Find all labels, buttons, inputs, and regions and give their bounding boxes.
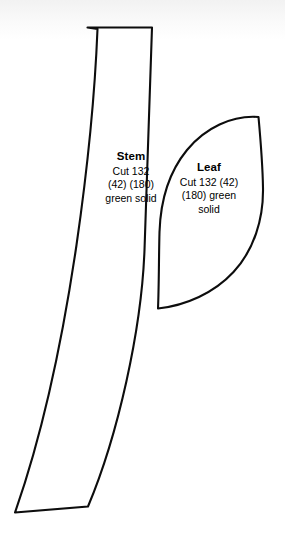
pattern-drawing (0, 0, 285, 547)
pattern-sheet: Stem Cut 132 (42) (180) green solid Leaf… (0, 0, 285, 547)
stem-label: Stem Cut 132 (42) (180) green solid (95, 150, 167, 205)
leaf-title: Leaf (166, 161, 252, 176)
leaf-line-2: (180) green (166, 189, 252, 203)
stem-line-2: (42) (180) (95, 178, 167, 192)
stem-outline-path (15, 28, 152, 513)
leaf-line-1: Cut 132 (42) (166, 176, 252, 190)
stem-line-1: Cut 132 (95, 165, 167, 179)
leaf-label: Leaf Cut 132 (42) (180) green solid (166, 161, 252, 216)
leaf-line-3: solid (166, 203, 252, 217)
stem-line-3: green solid (95, 192, 167, 206)
stem-title: Stem (95, 150, 167, 165)
